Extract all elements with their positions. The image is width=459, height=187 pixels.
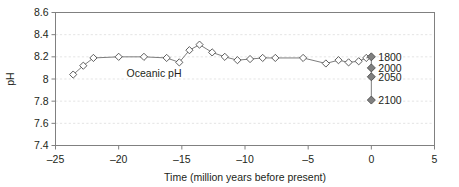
scenario-label-2050: 2050 — [378, 71, 402, 83]
x-tick-label: –10 — [236, 153, 254, 165]
data-point-marker — [163, 54, 170, 61]
data-point-marker — [196, 41, 203, 48]
y-axis-ticks: 7.47.67.888.28.48.6 — [34, 6, 56, 151]
y-tick-label: 8 — [43, 73, 49, 85]
data-point-marker — [115, 53, 122, 60]
y-axis-title: pH — [4, 72, 16, 85]
data-point-marker — [355, 58, 362, 65]
x-tick-label: –15 — [173, 153, 191, 165]
x-axis-ticks: –25–20–15–10–505 — [47, 146, 438, 165]
x-tick-label: –20 — [110, 153, 128, 165]
scenario-label-2100: 2100 — [378, 94, 402, 106]
data-point-marker — [272, 54, 279, 61]
data-point-marker — [90, 54, 97, 61]
series-annotation: Oceanic pH — [127, 67, 182, 79]
oceanic-ph-chart: 1800200020502100 –25–20–15–10–505 7.47.6… — [0, 0, 459, 187]
scenario-marker-2000 — [367, 64, 375, 72]
y-tick-label: 8.2 — [34, 50, 49, 62]
y-tick-label: 8.6 — [34, 6, 49, 18]
data-point-marker — [209, 49, 216, 56]
y-tick-label: 7.4 — [34, 139, 49, 151]
y-tick-label: 7.6 — [34, 117, 49, 129]
scenario-marker-2050 — [367, 73, 375, 81]
data-point-marker — [246, 55, 253, 62]
axis-titles: Time (million years before present)pH — [4, 72, 326, 183]
data-point-marker — [345, 59, 352, 66]
data-point-marker — [322, 60, 329, 67]
data-point-marker — [335, 57, 342, 64]
y-tick-label: 7.8 — [34, 95, 49, 107]
x-tick-label: 0 — [368, 153, 374, 165]
data-point-marker — [221, 53, 228, 60]
future-scenario-layer: 1800200020502100 — [366, 51, 402, 106]
oceanic-ph-line — [73, 45, 366, 75]
y-tick-label: 8.4 — [34, 28, 49, 40]
data-point-marker — [300, 54, 307, 61]
scenario-marker-2100 — [367, 96, 375, 104]
data-point-marker — [140, 53, 147, 60]
data-point-marker — [259, 54, 266, 61]
data-point-marker — [234, 57, 241, 64]
data-series-layer — [70, 41, 370, 78]
chart-annotations: Oceanic pH — [127, 67, 182, 79]
x-axis-title: Time (million years before present) — [164, 171, 326, 183]
chart-figure: 1800200020502100 –25–20–15–10–505 7.47.6… — [0, 0, 459, 187]
x-tick-label: –25 — [47, 153, 65, 165]
x-tick-label: –5 — [302, 153, 314, 165]
x-tick-label: 5 — [432, 153, 438, 165]
